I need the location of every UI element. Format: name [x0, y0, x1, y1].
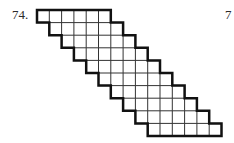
grid-lines [37, 10, 222, 136]
staircase-grid-figure [0, 0, 234, 143]
